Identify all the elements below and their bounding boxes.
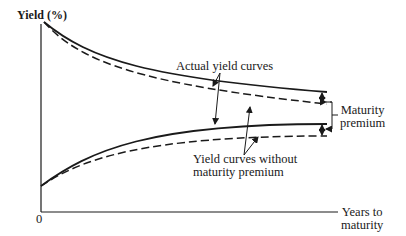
y-axis-label: Yield (%) <box>17 9 67 22</box>
actual-curves-label: Actual yield curves <box>176 60 273 73</box>
without-premium-line2: maturity premium <box>193 166 297 179</box>
maturity-premium-label: Maturity premium <box>340 104 385 130</box>
origin-label: 0 <box>36 213 42 226</box>
maturity-premium-line2: premium <box>340 117 385 130</box>
x-axis-label: Years to maturity <box>341 206 383 232</box>
actual-curve-downward <box>44 22 327 92</box>
without-premium-label: Yield curves without maturity premium <box>193 153 297 179</box>
x-axis-label-line2: maturity <box>341 219 383 232</box>
